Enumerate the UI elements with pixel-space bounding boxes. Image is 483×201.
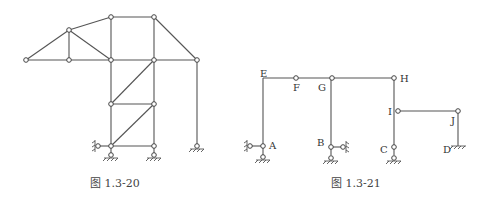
node-A [261, 144, 266, 149]
node [152, 144, 157, 149]
node [195, 58, 200, 63]
node [67, 58, 72, 63]
members [26, 17, 197, 146]
member [26, 30, 69, 60]
figure-1-3-20: 图 1.3-20 [24, 15, 204, 190]
node [195, 144, 200, 149]
label-G: G [318, 82, 326, 93]
label-E: E [260, 68, 267, 79]
member [69, 17, 111, 30]
node [109, 15, 114, 20]
node-G [330, 76, 335, 81]
label-J: J [450, 115, 455, 126]
member [154, 17, 197, 60]
member [111, 60, 154, 104]
node-B [329, 145, 334, 150]
node [24, 58, 29, 63]
label-D: D [443, 144, 451, 155]
node-J [456, 109, 461, 114]
label-B: B [317, 137, 324, 148]
support-B [323, 141, 349, 164]
node-F [294, 76, 299, 81]
label-I: I [388, 106, 392, 117]
figure-1-3-21: E F G H I J A B C D 图 1.3-21 [244, 68, 466, 190]
node-I [396, 109, 401, 114]
label-A: A [268, 140, 277, 151]
label-F: F [293, 82, 300, 93]
node-C [392, 145, 397, 150]
node [152, 58, 157, 63]
node [67, 28, 72, 33]
member [69, 30, 111, 60]
support-A [244, 140, 270, 163]
label-C: C [380, 144, 388, 155]
node [109, 102, 114, 107]
node-H [392, 76, 397, 81]
node [152, 102, 157, 107]
member [111, 104, 154, 146]
node [109, 144, 114, 149]
nodes [261, 76, 461, 150]
hinge-support [189, 149, 204, 152]
structural-diagrams: 图 1.3-20 [0, 0, 483, 201]
node [109, 58, 114, 63]
figure-caption: 图 1.3-21 [331, 177, 381, 190]
label-H: H [400, 73, 409, 84]
node [152, 15, 157, 20]
horizontal-link-support [92, 140, 111, 152]
figure-caption: 图 1.3-20 [90, 177, 140, 190]
support-D [450, 146, 466, 149]
